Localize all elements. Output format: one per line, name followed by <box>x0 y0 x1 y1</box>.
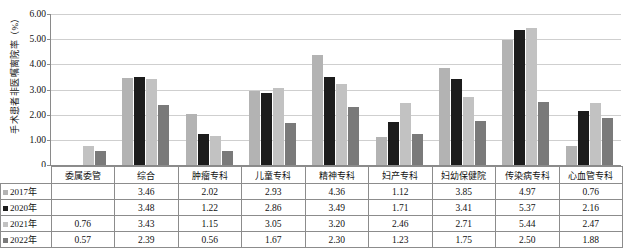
bar-group <box>178 14 241 165</box>
bar <box>122 78 133 165</box>
table-cell: 2.71 <box>432 216 496 232</box>
bar <box>412 134 423 165</box>
table-cell: 5.44 <box>496 216 560 232</box>
y-tick-label: 3.00 <box>29 85 46 95</box>
legend-swatch-icon <box>3 190 8 195</box>
bar <box>400 103 411 165</box>
bar <box>198 134 209 165</box>
bar <box>578 111 589 165</box>
table-cell: 3.85 <box>432 184 496 200</box>
table-cell: 1.15 <box>178 216 242 232</box>
bar-group <box>241 14 304 165</box>
plot-area <box>50 14 621 166</box>
legend-label: 2020年 <box>10 203 37 213</box>
bar <box>134 77 145 165</box>
bar-group <box>51 14 114 165</box>
table-cell: 2.30 <box>305 232 369 248</box>
table-column-header: 妇幼保健院 <box>432 167 496 184</box>
bar <box>285 123 296 165</box>
bar <box>249 91 260 165</box>
bar <box>502 40 513 165</box>
table-cell: 2.02 <box>178 184 242 200</box>
bar <box>376 137 387 165</box>
legend-label: 2017年 <box>10 187 37 197</box>
bar <box>475 121 486 165</box>
table-cell: 0.57 <box>51 232 115 248</box>
bar <box>388 122 399 165</box>
table-column-header: 肿瘤专科 <box>178 167 242 184</box>
bar <box>312 55 323 165</box>
table-cell: 2.47 <box>559 216 623 232</box>
table-cell: 3.49 <box>305 200 369 216</box>
legend-swatch-icon <box>3 206 8 211</box>
table-cell: 1.88 <box>559 232 623 248</box>
table-column-header: 心血管专科 <box>559 167 623 184</box>
table-cell: 3.20 <box>305 216 369 232</box>
bar <box>261 93 272 165</box>
bar <box>348 107 359 165</box>
table-cell: 0.76 <box>51 216 115 232</box>
table-row: 2020年3.481.222.863.491.713.415.372.16 <box>1 200 623 216</box>
legend-swatch-icon <box>3 238 8 243</box>
table-cell: 2.50 <box>496 232 560 248</box>
bar <box>222 151 233 165</box>
data-table: 委属委管综合肿瘤专科儿童专科精神专科妇产专科妇幼保健院传染病专科心血管专科201… <box>0 166 623 248</box>
y-tick-label: 1.00 <box>29 135 46 145</box>
table-cell: 1.22 <box>178 200 242 216</box>
table-cell <box>51 200 115 216</box>
table-cell: 2.46 <box>369 216 433 232</box>
y-axis-tick-labels: 6.005.004.003.002.001.000 <box>14 0 48 178</box>
bar-group <box>114 14 177 165</box>
bar <box>324 77 335 165</box>
y-tick-label: 2.00 <box>29 110 46 120</box>
table-column-header: 儿童专科 <box>242 167 306 184</box>
y-tick-label: 6.00 <box>29 9 46 19</box>
table-cell: 1.23 <box>369 232 433 248</box>
table-row: 2021年0.763.431.153.053.202.462.715.442.4… <box>1 216 623 232</box>
bar-group <box>494 14 557 165</box>
table-cell: 0.56 <box>178 232 242 248</box>
bar <box>526 28 537 165</box>
bar <box>590 103 601 165</box>
table-cell: 1.67 <box>242 232 306 248</box>
table-cell: 1.75 <box>432 232 496 248</box>
table-cell: 4.36 <box>305 184 369 200</box>
bar-groups <box>51 14 621 165</box>
bar <box>146 79 157 165</box>
bar <box>538 102 549 165</box>
bar <box>451 79 462 165</box>
legend-swatch-icon <box>3 222 8 227</box>
table-cell <box>51 184 115 200</box>
bar-group <box>368 14 431 165</box>
table-cell: 3.41 <box>432 200 496 216</box>
table-row: 2022年0.572.390.561.672.301.231.752.501.8… <box>1 232 623 248</box>
y-tick-label: 4.00 <box>29 59 46 69</box>
table-cell: 1.12 <box>369 184 433 200</box>
bar-group <box>558 14 621 165</box>
bar <box>602 118 613 165</box>
legend-item-2021年: 2021年 <box>1 216 52 232</box>
table-cell: 3.48 <box>115 200 179 216</box>
bar-chart: 手术患者非医嘱离院率（%） 6.005.004.003.002.001.000 <box>0 0 623 178</box>
table-cell: 3.43 <box>115 216 179 232</box>
legend-item-2017年: 2017年 <box>1 184 52 200</box>
table-cell: 2.16 <box>559 200 623 216</box>
table-cell: 1.71 <box>369 200 433 216</box>
table-column-header: 传染病专科 <box>496 167 560 184</box>
bar <box>210 136 221 165</box>
bar <box>83 146 94 165</box>
table-column-header: 综合 <box>115 167 179 184</box>
legend-label: 2021年 <box>10 219 37 229</box>
bar <box>566 146 577 165</box>
table-cell: 4.97 <box>496 184 560 200</box>
table-corner-cell <box>1 167 52 184</box>
table-column-header: 精神专科 <box>305 167 369 184</box>
bar <box>336 84 347 165</box>
table-header-row: 委属委管综合肿瘤专科儿童专科精神专科妇产专科妇幼保健院传染病专科心血管专科 <box>1 167 623 184</box>
legend-label: 2022年 <box>10 235 37 245</box>
table-cell: 5.37 <box>496 200 560 216</box>
bar-group <box>431 14 494 165</box>
bar <box>463 97 474 165</box>
table-cell: 2.39 <box>115 232 179 248</box>
